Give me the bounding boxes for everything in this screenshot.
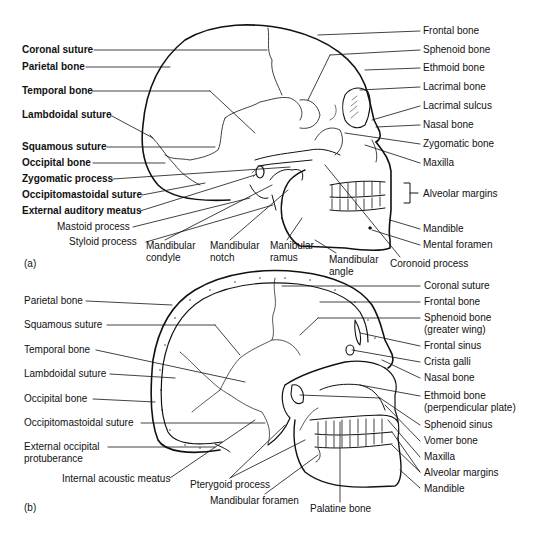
label-mandibular-ramus: Manibular ramus xyxy=(270,240,314,263)
label-external-occipital-protuberance: External occipital protuberance xyxy=(24,441,100,464)
label-mandibular-foramen: Mandibular foramen xyxy=(210,495,299,507)
label-styloid-process: Styloid process xyxy=(69,236,137,248)
label-lacrimal-bone: Lacrimal bone xyxy=(423,81,486,93)
label-maxilla-a: Maxilla xyxy=(423,157,454,169)
label-mastoid-process: Mastoid process xyxy=(57,221,130,233)
label-nasal-bone-a: Nasal bone xyxy=(423,119,474,131)
label-lambdoidal-suture-a: Lambdoidal suture xyxy=(22,109,111,121)
label-zygomatic-bone: Zygomatic bone xyxy=(423,138,494,150)
label-frontal-bone-a: Frontal bone xyxy=(423,25,479,37)
label-alveolar-margins-b: Alveolar margins xyxy=(424,467,498,479)
label-coronal-suture-b: Coronal suture xyxy=(424,280,490,292)
skull-figure: Coronal suture Parietal bone Temporal bo… xyxy=(0,0,533,533)
label-sphenoid-sinus: Sphenoid sinus xyxy=(424,419,492,431)
label-frontal-sinus: Frontal sinus xyxy=(424,340,481,352)
label-parietal-bone-b: Parietal bone xyxy=(24,295,83,307)
label-palatine-bone: Palatine bone xyxy=(310,503,371,515)
label-temporal-bone-b: Temporal bone xyxy=(24,344,90,356)
label-parietal-bone-a: Parietal bone xyxy=(22,61,85,73)
label-internal-acoustic-meatus: Internal acoustic meatus xyxy=(62,473,170,485)
label-squamous-suture-b: Squamous suture xyxy=(24,319,102,331)
label-mandibular-condyle: Mandibular condyle xyxy=(146,240,195,263)
label-mandibular-notch: Mandibular notch xyxy=(210,240,259,263)
label-frontal-bone-b: Frontal bone xyxy=(424,296,480,308)
label-lambdoidal-suture-b: Lambdoidal suture xyxy=(24,368,106,380)
panel-a-tag: (a) xyxy=(24,258,36,269)
label-mandible-b: Mandible xyxy=(424,483,465,495)
label-mandibular-angle: Mandibular angle xyxy=(329,254,378,277)
label-sphenoid-bone-a: Sphenoid bone xyxy=(423,44,490,56)
panel-a-leader-lines xyxy=(86,31,420,257)
label-occipital-bone-b: Occipital bone xyxy=(24,393,87,405)
label-vomer-bone: Vomer bone xyxy=(424,435,478,447)
label-coronal-suture-a: Coronal suture xyxy=(22,44,93,56)
label-temporal-bone-a: Temporal bone xyxy=(22,85,93,97)
label-sphenoid-bone-greater-wing: Sphenoid bone (greater wing) xyxy=(424,312,491,335)
label-crista-galli: Crista galli xyxy=(424,356,471,368)
label-mandible-a: Mandible xyxy=(423,223,464,235)
label-nasal-bone-b: Nasal bone xyxy=(424,372,475,384)
label-occipitomastoidal-suture-b: Occipitomastoidal suture xyxy=(24,417,134,429)
label-lacrimal-sulcus: Lacrimal sulcus xyxy=(423,100,492,112)
panel-b-leader-lines xyxy=(86,286,420,502)
label-zygomatic-process: Zygomatic process xyxy=(22,173,113,185)
label-maxilla-b: Maxilla xyxy=(424,451,455,463)
panel-b-tag: (b) xyxy=(24,502,36,513)
label-coronoid-process: Coronoid process xyxy=(390,258,468,270)
label-squamous-suture-a: Squamous suture xyxy=(22,141,106,153)
label-ethmoid-perpendicular-plate: Ethmoid bone (perpendicular plate) xyxy=(424,390,516,413)
label-pterygoid-process: Pterygoid process xyxy=(190,479,270,491)
label-external-auditory-meatus: External auditory meatus xyxy=(22,205,141,217)
label-alveolar-margins-a: Alveolar margins xyxy=(423,188,497,200)
label-occipitomastoidal-suture-a: Occipitomastoidal suture xyxy=(22,189,142,201)
label-occipital-bone-a: Occipital bone xyxy=(22,157,91,169)
label-ethmoid-bone-a: Ethmoid bone xyxy=(423,62,485,74)
label-mental-foramen: Mental foramen xyxy=(423,239,492,251)
